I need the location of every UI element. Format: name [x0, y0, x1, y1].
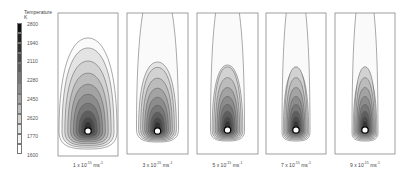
heat-source-marker [362, 127, 368, 133]
label-unit: ms [301, 162, 308, 168]
label-exponent: -15 [295, 161, 300, 165]
label-unit-exponent: -1 [377, 161, 380, 165]
label-unit-exponent: -1 [100, 161, 103, 165]
label-base: 9 x 10 [350, 162, 364, 168]
label-unit: ms [93, 162, 100, 168]
label-unit-exponent: -1 [169, 161, 172, 165]
label-exponent: -15 [226, 161, 231, 165]
panel-velocity-label: 1 x 10-15 ms-1 [53, 161, 123, 168]
panel-velocity-label: 7 x 10-15 ms-1 [261, 161, 331, 168]
temperature-contour-figure [0, 0, 417, 176]
heat-source-marker [224, 127, 230, 133]
panel-velocity-label: 5 x 10-15 ms-1 [193, 161, 263, 168]
label-exponent: -15 [87, 161, 92, 165]
label-exponent: -15 [364, 161, 369, 165]
label-base: 5 x 10 [213, 162, 227, 168]
label-base: 7 x 10 [281, 162, 295, 168]
contour-panel [335, 0, 395, 154]
contour-panel [266, 0, 326, 154]
label-unit-exponent: -1 [239, 161, 242, 165]
panel-velocity-label: 9 x 10-15 ms-1 [330, 161, 400, 168]
panel-velocity-label: 3 x 10-15 ms-1 [123, 161, 193, 168]
contour-panel [127, 0, 188, 154]
heat-source-marker [293, 127, 299, 133]
label-base: 3 x 10 [143, 162, 157, 168]
contour-panel [197, 0, 258, 154]
label-unit: ms [370, 162, 377, 168]
heat-source-marker [85, 128, 91, 134]
contour-panel [58, 13, 118, 156]
heat-source-marker [154, 128, 160, 134]
label-exponent: -15 [156, 161, 161, 165]
label-unit-exponent: -1 [308, 161, 311, 165]
label-base: 1 x 10 [73, 162, 87, 168]
